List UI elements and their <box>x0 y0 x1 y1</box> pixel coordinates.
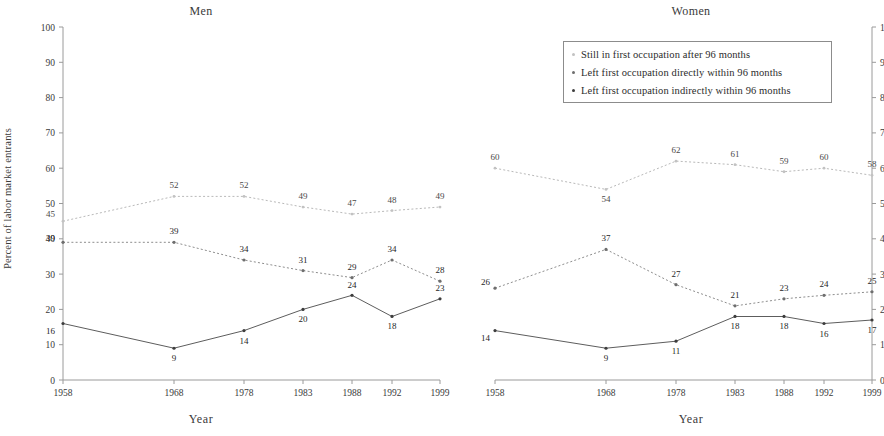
data-point-label: 34 <box>388 244 398 254</box>
data-point <box>301 269 304 272</box>
x-tick-label: 1988 <box>775 388 794 398</box>
x-tick-label: 1999 <box>863 388 882 398</box>
legend-label-2: Left first occupation indirectly within … <box>581 85 791 96</box>
data-point <box>390 315 393 318</box>
data-point-label: 45 <box>46 209 56 219</box>
dot-light-icon <box>572 53 575 56</box>
legend-item-1: Left first occupation directly within 96… <box>572 67 782 78</box>
data-point <box>494 167 497 170</box>
data-point-label: 9 <box>172 353 177 363</box>
data-point <box>172 347 175 350</box>
data-point-label: 28 <box>436 265 446 275</box>
figure: Men Percent of labor market entrants 010… <box>0 0 884 436</box>
data-point <box>301 308 304 311</box>
data-point-label: 25 <box>868 276 878 286</box>
data-point <box>439 206 442 209</box>
data-point-label: 31 <box>299 255 308 265</box>
y-tick-label: 40 <box>880 234 884 244</box>
data-point <box>61 241 64 244</box>
data-point-label: 14 <box>240 336 250 346</box>
data-point-label: 14 <box>481 333 491 343</box>
legend: Still in first occupation after 96 month… <box>563 41 832 103</box>
dot-dark-icon <box>572 89 575 92</box>
data-point <box>242 329 245 332</box>
data-point-label: 21 <box>731 290 740 300</box>
data-point <box>782 315 785 318</box>
data-point-label: 18 <box>388 321 398 331</box>
y-tick-label: 100 <box>880 23 884 33</box>
data-point-label: 58 <box>868 159 878 169</box>
data-point <box>733 315 736 318</box>
data-point <box>390 258 393 261</box>
data-point <box>351 213 354 216</box>
x-tick-label: 1968 <box>597 388 616 398</box>
data-point-label: 18 <box>731 321 741 331</box>
data-point <box>172 241 175 244</box>
data-point-label: 37 <box>602 233 612 243</box>
x-tick-label: 1992 <box>383 388 402 398</box>
x-tick-label: 1988 <box>343 388 362 398</box>
data-point <box>62 220 65 223</box>
data-point-label: 16 <box>46 326 56 336</box>
data-point <box>870 318 873 321</box>
data-point <box>674 340 677 343</box>
y-tick-label: 80 <box>46 93 56 103</box>
data-point <box>783 170 786 173</box>
data-point-label: 49 <box>299 191 309 201</box>
data-point-label: 24 <box>820 279 830 289</box>
data-point-label: 11 <box>672 346 681 356</box>
x-tick-label: 1999 <box>431 388 450 398</box>
x-tick-label: 1992 <box>815 388 834 398</box>
data-point <box>350 294 353 297</box>
data-point <box>871 174 874 177</box>
y-tick-label: 60 <box>46 164 56 174</box>
data-point-label: 17 <box>868 325 878 335</box>
x-tick-label: 1983 <box>294 388 313 398</box>
legend-label-0: Still in first occupation after 96 month… <box>581 49 750 60</box>
data-point-label: 39 <box>170 226 180 236</box>
data-point <box>243 195 246 198</box>
y-tick-label: 20 <box>46 305 56 315</box>
x-tick-label: 1978 <box>235 388 254 398</box>
data-point-label: 39 <box>46 233 56 243</box>
data-point <box>173 195 176 198</box>
data-point <box>350 276 353 279</box>
data-point-label: 27 <box>672 269 682 279</box>
panel-title-women: Women <box>474 4 884 19</box>
data-point <box>605 188 608 191</box>
y-axis-title-men: Percent of labor market entrants <box>2 128 13 269</box>
y-tick-label: 20 <box>880 305 884 315</box>
y-tick-label: 70 <box>880 128 884 138</box>
data-point-label: 62 <box>672 145 681 155</box>
dot-mid-icon <box>572 71 575 74</box>
x-axis-title-men: Year <box>0 412 426 427</box>
y-tick-label: 60 <box>880 164 884 174</box>
x-tick-label: 1958 <box>486 388 505 398</box>
data-point <box>604 248 607 251</box>
data-point-label: 16 <box>820 329 830 339</box>
data-point-label: 34 <box>240 244 250 254</box>
data-point-label: 47 <box>348 198 358 208</box>
data-point-label: 24 <box>348 280 358 290</box>
legend-item-0: Still in first occupation after 96 month… <box>572 49 750 60</box>
y-tick-label: 30 <box>880 270 884 280</box>
x-tick-label: 1958 <box>54 388 73 398</box>
y-tick-label: 10 <box>46 340 56 350</box>
data-point-label: 54 <box>602 194 612 204</box>
data-point-label: 26 <box>481 277 491 287</box>
data-point-label: 23 <box>780 283 790 293</box>
data-point-label: 18 <box>780 321 790 331</box>
data-point-label: 52 <box>240 180 249 190</box>
data-point <box>734 163 737 166</box>
panel-title-men: Men <box>0 4 426 19</box>
data-point-label: 9 <box>604 353 609 363</box>
data-point <box>733 304 736 307</box>
data-point-label: 61 <box>731 149 740 159</box>
data-point-label: 29 <box>348 262 358 272</box>
y-tick-label: 100 <box>41 23 56 33</box>
data-point <box>604 347 607 350</box>
legend-label-1: Left first occupation directly within 96… <box>581 67 782 78</box>
x-tick-label: 1968 <box>165 388 184 398</box>
data-point <box>493 287 496 290</box>
data-point <box>493 329 496 332</box>
